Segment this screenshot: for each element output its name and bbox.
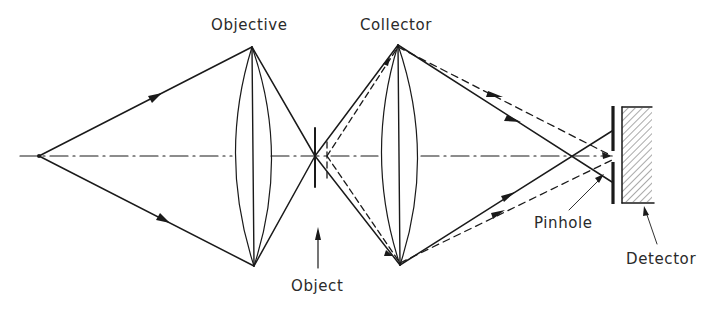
object-label: Object xyxy=(291,279,343,294)
objective-lens xyxy=(235,47,271,266)
detector xyxy=(622,107,654,203)
arrow-icon xyxy=(504,115,521,122)
arrow-icon xyxy=(156,213,170,223)
collector-label: Collector xyxy=(360,18,432,33)
arrow-icon xyxy=(148,93,162,103)
optical-diagram xyxy=(0,0,713,311)
arrow-up-icon xyxy=(315,227,321,240)
arrow-icon xyxy=(491,210,505,219)
pinhole-pointer xyxy=(569,174,604,210)
arrow-icon xyxy=(486,91,503,97)
in-focus-rays-to-pinhole xyxy=(398,45,612,265)
objective-label: Objective xyxy=(211,18,288,33)
arrow-icon xyxy=(595,174,604,183)
detector-label: Detector xyxy=(626,252,696,267)
arrow-icon xyxy=(643,206,649,216)
detector-pointer xyxy=(643,206,657,244)
pinhole-label: Pinhole xyxy=(534,216,593,231)
collector-lens xyxy=(381,45,417,265)
source-point xyxy=(37,154,41,158)
object-pointer xyxy=(315,227,321,268)
